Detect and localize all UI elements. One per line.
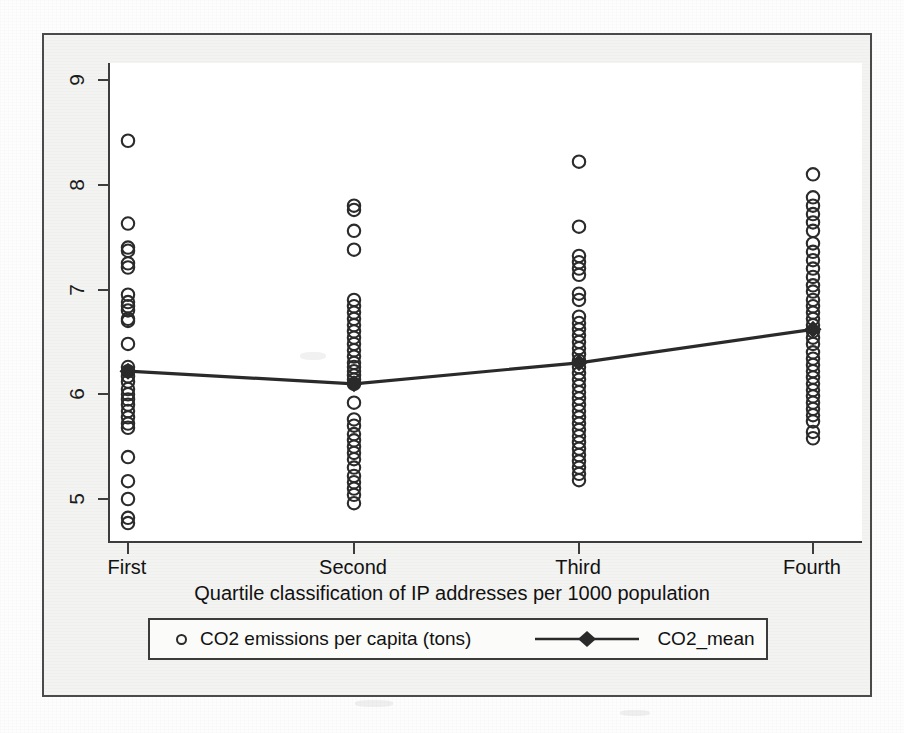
y-tick-5 bbox=[98, 498, 109, 500]
open-circle-icon bbox=[176, 634, 187, 645]
figure-page: 9 8 7 6 5 First Second Third Fourth Quar… bbox=[0, 0, 904, 733]
legend-label-mean: CO2_mean bbox=[657, 628, 754, 650]
x-tick-third bbox=[578, 543, 580, 554]
legend-entry-mean: CO2_mean bbox=[533, 620, 754, 658]
y-tick-6 bbox=[98, 393, 109, 395]
scan-artifact bbox=[355, 700, 393, 707]
x-tick-label-third: Third bbox=[528, 556, 628, 579]
diamond-line-icon bbox=[533, 629, 641, 649]
x-tick-first bbox=[127, 543, 129, 554]
x-tick-label-first: First bbox=[77, 556, 177, 579]
y-axis-line bbox=[108, 63, 110, 542]
y-tick-label-6: 6 bbox=[65, 377, 89, 411]
x-axis-line bbox=[108, 541, 862, 543]
y-tick-8 bbox=[98, 184, 109, 186]
y-tick-label-7: 7 bbox=[65, 273, 89, 307]
scan-artifact bbox=[300, 352, 326, 360]
legend: CO2 emissions per capita (tons) CO2_mean bbox=[148, 618, 768, 660]
x-tick-fourth bbox=[812, 543, 814, 554]
legend-entry-points: CO2 emissions per capita (tons) bbox=[176, 620, 471, 658]
plot-area bbox=[109, 63, 862, 541]
scan-artifact bbox=[620, 710, 650, 716]
y-tick-7 bbox=[98, 289, 109, 291]
x-tick-label-second: Second bbox=[298, 556, 408, 579]
y-tick-label-8: 8 bbox=[65, 168, 89, 202]
x-tick-second bbox=[353, 543, 355, 554]
x-axis-title: Quartile classification of IP addresses … bbox=[0, 582, 904, 605]
y-tick-label-9: 9 bbox=[65, 63, 89, 97]
y-tick-label-5: 5 bbox=[65, 482, 89, 516]
x-tick-label-fourth: Fourth bbox=[762, 556, 862, 579]
legend-label-points: CO2 emissions per capita (tons) bbox=[200, 628, 471, 650]
y-tick-9 bbox=[98, 79, 109, 81]
